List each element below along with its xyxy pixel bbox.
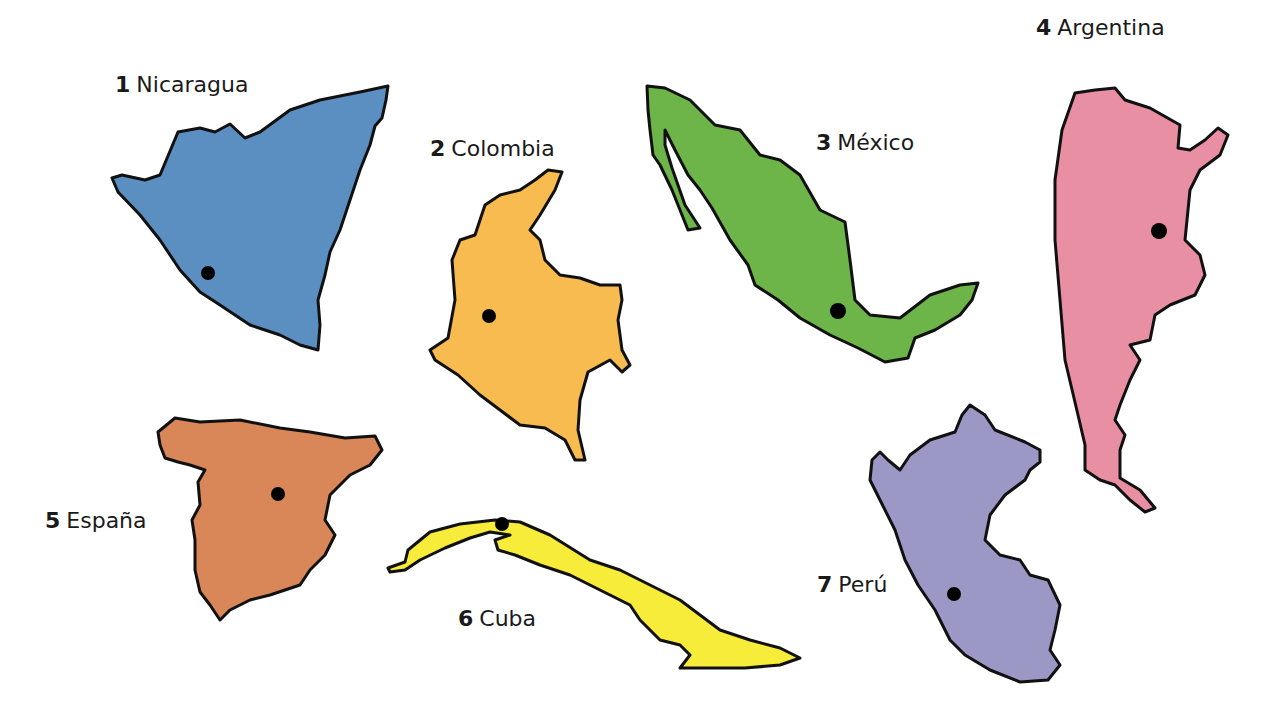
label-name: España — [66, 508, 146, 533]
capital-dot-colombia — [482, 309, 496, 323]
label-number: 4 — [1036, 15, 1051, 40]
label-name: Perú — [838, 572, 887, 597]
label-name: Colombia — [451, 136, 554, 161]
label-name: México — [837, 130, 914, 155]
capital-dot-argentina — [1151, 223, 1167, 239]
label-number: 5 — [45, 508, 60, 533]
label-cuba: 6Cuba — [458, 608, 536, 630]
country-shape-cuba[interactable] — [388, 520, 800, 668]
country-shape-nicaragua[interactable] — [112, 86, 388, 350]
label-name: Argentina — [1057, 15, 1164, 40]
country-map — [0, 0, 1280, 711]
label-name: Cuba — [479, 606, 536, 631]
label-name: Nicaragua — [136, 72, 248, 97]
label-espana: 5España — [45, 510, 147, 532]
country-shape-espana[interactable] — [158, 418, 382, 620]
capital-dot-peru — [947, 587, 961, 601]
country-shape-peru[interactable] — [870, 405, 1060, 682]
label-number: 1 — [115, 72, 130, 97]
capital-dot-nicaragua — [201, 266, 215, 280]
capital-dot-cuba — [495, 517, 509, 531]
country-shape-argentina[interactable] — [1055, 88, 1228, 512]
capital-dot-espana — [271, 487, 285, 501]
country-shape-mexico[interactable] — [647, 86, 978, 362]
label-mexico: 3México — [816, 132, 914, 154]
label-number: 2 — [430, 136, 445, 161]
capital-dot-mexico — [830, 303, 846, 319]
label-number: 6 — [458, 606, 473, 631]
label-argentina: 4Argentina — [1036, 17, 1165, 39]
label-nicaragua: 1Nicaragua — [115, 74, 248, 96]
label-number: 7 — [817, 572, 832, 597]
label-colombia: 2Colombia — [430, 138, 555, 160]
label-peru: 7Perú — [817, 574, 887, 596]
label-number: 3 — [816, 130, 831, 155]
country-shape-colombia[interactable] — [430, 170, 630, 460]
